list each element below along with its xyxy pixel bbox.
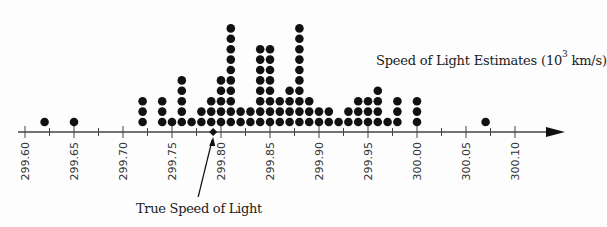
data-dot: [393, 118, 402, 127]
data-dot: [158, 118, 167, 127]
data-dot: [168, 118, 177, 127]
data-dot: [227, 107, 236, 116]
data-dot: [393, 107, 402, 116]
x-tick-label: 300.05: [460, 142, 473, 181]
x-tick-label: 299.90: [313, 142, 326, 181]
data-dot: [354, 107, 363, 116]
chart-title: Speed of Light Estimates (103 km/s): [376, 52, 607, 68]
data-dot: [236, 107, 245, 116]
data-dot: [364, 107, 373, 116]
data-dot: [217, 97, 226, 106]
data-dot: [295, 118, 304, 127]
data-dot: [158, 107, 167, 116]
x-tick-label: 299.85: [264, 142, 277, 181]
data-dot: [178, 97, 187, 106]
data-dot: [178, 107, 187, 116]
data-dot: [227, 24, 236, 33]
data-dot: [305, 97, 314, 106]
data-dot: [256, 97, 265, 106]
data-dot: [266, 55, 275, 64]
data-dot: [40, 118, 49, 127]
x-tick-label: 299.75: [166, 142, 179, 181]
diamond-marker-icon: [209, 128, 217, 136]
data-dot: [227, 76, 236, 85]
data-dot: [207, 97, 216, 106]
data-dot: [178, 76, 187, 85]
x-tick-label: 299.65: [68, 142, 81, 181]
x-tick-label: 299.60: [19, 142, 32, 181]
data-dot: [138, 107, 147, 116]
data-dot: [256, 87, 265, 96]
data-dot: [138, 97, 147, 106]
data-dot: [285, 107, 294, 116]
x-tick-label: 299.95: [362, 142, 375, 181]
data-dot: [374, 87, 383, 96]
data-dot: [413, 107, 422, 116]
data-dot: [315, 118, 324, 127]
data-dot: [236, 118, 245, 127]
data-dot: [187, 118, 196, 127]
data-dot: [266, 107, 275, 116]
data-dot: [393, 97, 402, 106]
data-dot: [256, 45, 265, 54]
data-dot: [413, 97, 422, 106]
data-dot: [217, 76, 226, 85]
data-dot: [227, 87, 236, 96]
data-dot: [266, 66, 275, 75]
data-dot: [276, 118, 285, 127]
x-tick-label: 299.80: [215, 142, 228, 181]
data-dot: [158, 97, 167, 106]
data-dot: [197, 107, 206, 116]
data-dot: [217, 87, 226, 96]
x-tick-labels: 299.60299.65299.70299.75299.80299.85299.…: [19, 142, 522, 181]
data-dot: [295, 107, 304, 116]
data-dot: [217, 107, 226, 116]
data-dot: [276, 97, 285, 106]
data-dot: [256, 66, 265, 75]
data-dot: [246, 107, 255, 116]
data-dot: [266, 97, 275, 106]
data-dot: [217, 118, 226, 127]
data-dot: [285, 97, 294, 106]
data-dot: [374, 107, 383, 116]
data-dot: [178, 118, 187, 127]
x-tick-label: 300.10: [509, 142, 522, 181]
data-dot: [256, 118, 265, 127]
data-dot: [256, 76, 265, 85]
data-dot: [364, 97, 373, 106]
data-dot: [295, 24, 304, 33]
data-dot: [295, 35, 304, 44]
data-dot: [413, 118, 422, 127]
data-dot: [266, 45, 275, 54]
data-dot: [266, 76, 275, 85]
data-dot: [344, 107, 353, 116]
data-dot: [207, 107, 216, 116]
data-dot: [315, 107, 324, 116]
data-dot: [354, 118, 363, 127]
data-dot: [334, 118, 343, 127]
data-dot: [374, 97, 383, 106]
data-dot: [227, 66, 236, 75]
data-dot: [227, 45, 236, 54]
data-dot: [276, 107, 285, 116]
data-dot: [285, 118, 294, 127]
x-tick-label: 300.00: [411, 142, 424, 181]
data-dot: [246, 118, 255, 127]
data-dot: [295, 66, 304, 75]
data-dot: [364, 118, 373, 127]
data-dot: [207, 118, 216, 127]
data-dot: [305, 118, 314, 127]
data-dot: [325, 107, 334, 116]
data-dot: [295, 76, 304, 85]
data-dot: [481, 118, 490, 127]
data-dot: [227, 97, 236, 106]
data-dot: [197, 118, 206, 127]
data-dot: [256, 107, 265, 116]
data-dot: [256, 55, 265, 64]
data-dot: [227, 55, 236, 64]
data-dot: [285, 87, 294, 96]
data-dot: [383, 118, 392, 127]
data-dot: [305, 107, 314, 116]
data-dot: [70, 118, 79, 127]
